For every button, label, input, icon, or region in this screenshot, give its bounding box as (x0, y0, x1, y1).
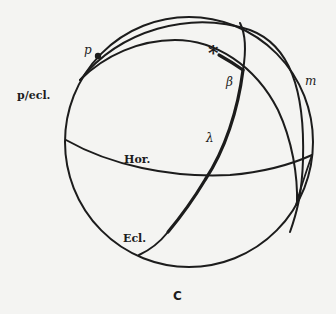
star-circle (80, 40, 297, 205)
label-pole: p (84, 43, 92, 57)
star-icon: * (208, 41, 219, 65)
label-pole-ecliptic: p/ecl. (17, 89, 50, 102)
celestial-sphere-diagram: * p p/ecl. β λ m Hor. Ecl. C (0, 0, 336, 314)
pole-point (95, 53, 101, 59)
label-longitude: λ (205, 131, 214, 145)
horizon-line (66, 140, 312, 175)
label-meridian: m (305, 74, 316, 88)
longitude-arc (168, 70, 243, 232)
label-latitude: β (225, 75, 233, 89)
horizon-end-link (296, 155, 312, 205)
label-horizon: Hor. (124, 153, 150, 166)
label-ecliptic: Ecl. (123, 232, 146, 245)
sphere-outline (65, 17, 313, 267)
figure-caption: C (173, 289, 182, 303)
